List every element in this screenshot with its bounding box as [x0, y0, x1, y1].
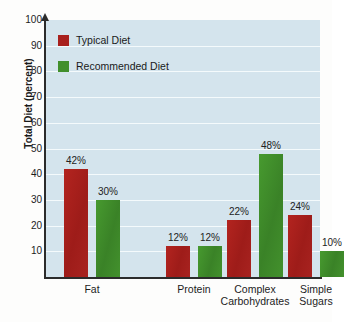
bar-typical-diet[interactable] — [227, 220, 251, 277]
x-category-label: SimpleSugars — [268, 283, 348, 307]
bar-recommended-diet[interactable] — [96, 200, 120, 277]
y-axis-arrow-icon — [41, 13, 49, 21]
y-tick-label: 10 — [2, 246, 42, 256]
x-category-label-line: Sugars — [268, 295, 348, 307]
bar-group: 12%12% — [160, 20, 228, 277]
y-tick-label: 20 — [2, 221, 42, 231]
legend-item-typical-diet: Typical Diet — [58, 31, 169, 49]
bar-value-label: 42% — [54, 155, 98, 166]
x-category-label: Fat — [44, 283, 140, 295]
red-swatch-icon — [58, 35, 69, 46]
green-swatch-icon — [58, 61, 69, 72]
y-tick-label: 50 — [2, 144, 42, 154]
bar-value-label: 10% — [310, 237, 348, 248]
bar-typical-diet[interactable] — [288, 215, 312, 277]
y-tick-label: 70 — [2, 92, 42, 102]
bar-typical-diet[interactable] — [64, 169, 88, 277]
legend-label-recommended-diet: Recommended Diet — [76, 60, 169, 72]
chart-legend: Typical Diet Recommended Diet — [58, 31, 169, 83]
legend-label-typical-diet: Typical Diet — [76, 34, 130, 46]
bar-typical-diet[interactable] — [166, 246, 190, 277]
x-category-label-line: Simple — [268, 283, 348, 295]
y-tick-label: 80 — [2, 66, 42, 76]
bar-group: 22%48% — [221, 20, 289, 277]
y-tick-label: 30 — [2, 195, 42, 205]
y-tick-label: 100 — [2, 15, 42, 25]
bar-recommended-diet[interactable] — [320, 251, 344, 277]
y-axis-tick-labels: 100908070605040302010 — [0, 0, 42, 322]
y-tick-label: 40 — [2, 169, 42, 179]
y-tick-label: 90 — [2, 41, 42, 51]
bar-value-label: 30% — [86, 186, 130, 197]
bar-recommended-diet[interactable] — [198, 246, 222, 277]
legend-item-recommended-diet: Recommended Diet — [58, 57, 169, 75]
plot-area: 42%30%12%12%22%48%24%10% Typical Diet Re… — [46, 20, 320, 277]
bar-group: 24%10% — [282, 20, 348, 277]
bar-value-label: 22% — [217, 206, 261, 217]
x-category-label-line: Fat — [44, 283, 140, 295]
bar-value-label: 24% — [278, 201, 322, 212]
y-axis-line — [44, 20, 46, 278]
bar-recommended-diet[interactable] — [259, 154, 283, 277]
x-axis-line — [44, 277, 322, 279]
y-tick-label: 60 — [2, 118, 42, 128]
